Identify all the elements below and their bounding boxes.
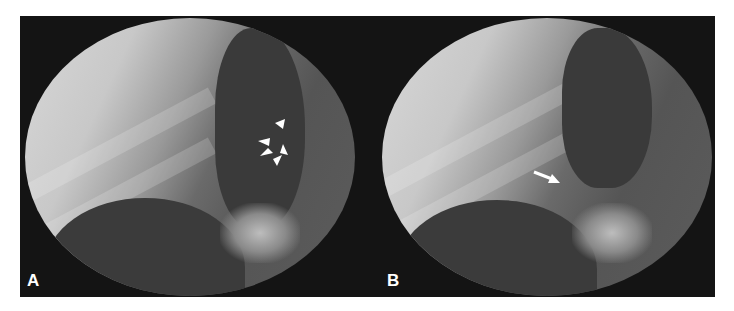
fluoroscopy-field-b — [382, 18, 712, 296]
arrow-icon — [532, 168, 564, 188]
arrowheads-icon — [255, 111, 315, 166]
bright-region — [220, 203, 300, 263]
dark-structure — [562, 28, 652, 188]
bright-region — [572, 203, 652, 263]
panel-label-b: B — [387, 271, 399, 291]
panel-b: B — [367, 16, 715, 297]
figure-strip: A B — [20, 16, 715, 297]
panel-label-a: A — [27, 271, 39, 291]
panel-a: A — [20, 16, 367, 297]
